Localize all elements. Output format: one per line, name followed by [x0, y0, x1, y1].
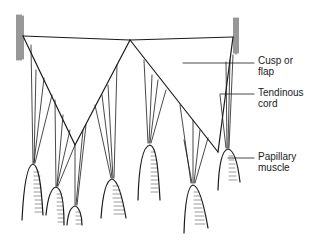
label-papillary-muscle: Papillary muscle — [258, 151, 296, 173]
label-tendinous-cord-line2: cord — [258, 98, 304, 109]
papillary-muscle-3 — [67, 206, 82, 225]
cusp-edges — [23, 36, 233, 152]
papillary-muscle-7 — [218, 149, 240, 190]
muscle-hatching — [34, 152, 237, 224]
label-cusp: Cusp or flap — [258, 55, 293, 77]
tendinous-cords — [31, 45, 233, 205]
annulus-line — [23, 36, 233, 40]
valve-diagram — [0, 0, 320, 242]
label-tendinous-cord-line1: Tendinous — [258, 87, 304, 98]
label-cusp-line1: Cusp or — [258, 55, 293, 66]
label-tendinous-cord: Tendinous cord — [258, 87, 304, 109]
label-papillary-muscle-line2: muscle — [258, 162, 296, 173]
papillary-muscles — [22, 145, 240, 233]
right-wall — [234, 18, 238, 54]
label-cusp-line2: flap — [258, 66, 293, 77]
label-papillary-muscle-line1: Papillary — [258, 151, 296, 162]
papillary-muscle-4 — [101, 179, 126, 218]
left-wall — [17, 15, 23, 60]
